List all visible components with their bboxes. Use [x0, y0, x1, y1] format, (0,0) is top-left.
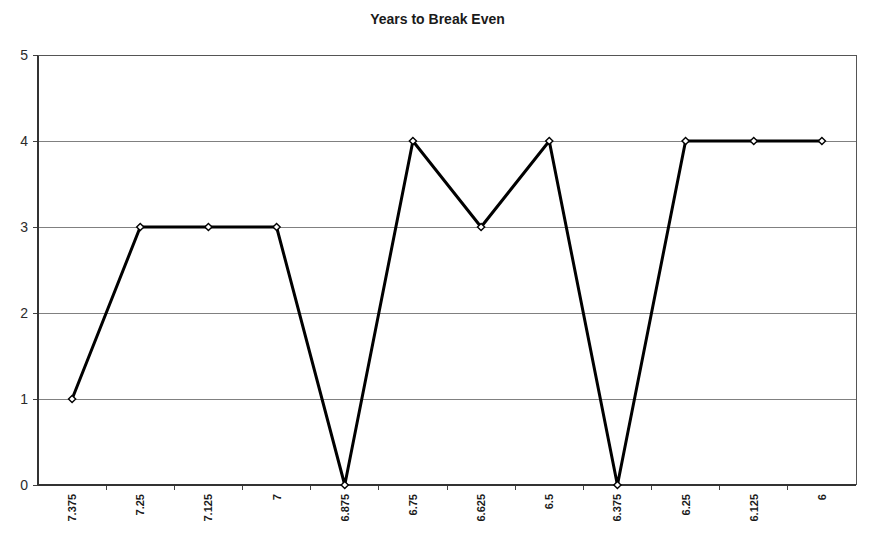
data-point-marker [205, 223, 212, 230]
data-point-marker [682, 137, 689, 144]
data-point-marker [750, 137, 757, 144]
data-point-marker [273, 223, 280, 230]
plot-area [0, 0, 875, 541]
plot-frame [38, 55, 856, 485]
data-point-marker [614, 481, 621, 488]
data-point-marker [341, 481, 348, 488]
data-point-marker [818, 137, 825, 144]
chart-container: Years to Break Even 012345 7.3757.257.12… [0, 0, 875, 541]
